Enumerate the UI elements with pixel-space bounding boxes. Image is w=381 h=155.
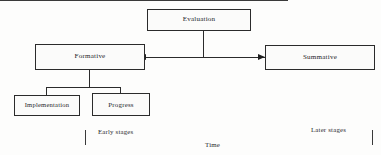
time-axis-title: Time [205, 141, 220, 148]
connector-formative-stem [89, 70, 90, 88]
node-formative[interactable]: Formative [35, 44, 145, 70]
node-progress-label: Progress [108, 101, 133, 108]
connector-evaluation-stem [203, 31, 204, 58]
node-summative[interactable]: Summative [265, 45, 375, 70]
node-implementation[interactable]: Implementation [14, 95, 80, 116]
evaluation-diagram: Evaluation Formative Summative Implement… [0, 0, 381, 155]
time-axis-line [0, 0, 288, 1]
node-progress[interactable]: Progress [92, 93, 150, 116]
connector-implementation-drop [46, 87, 47, 95]
time-axis-end-label: Later stages [311, 126, 346, 133]
connector-formative-summative [141, 57, 265, 58]
node-formative-label: Formative [75, 53, 106, 60]
time-axis-end-tick [372, 130, 373, 145]
node-implementation-label: Implementation [25, 102, 70, 109]
arrow-right-icon [258, 54, 265, 60]
time-axis-start-label: Early stages [98, 128, 133, 135]
connector-children-bar [46, 87, 121, 88]
node-summative-label: Summative [303, 54, 337, 61]
node-evaluation[interactable]: Evaluation [147, 9, 251, 31]
time-axis-start-tick [85, 130, 86, 145]
node-evaluation-label: Evaluation [183, 16, 216, 23]
